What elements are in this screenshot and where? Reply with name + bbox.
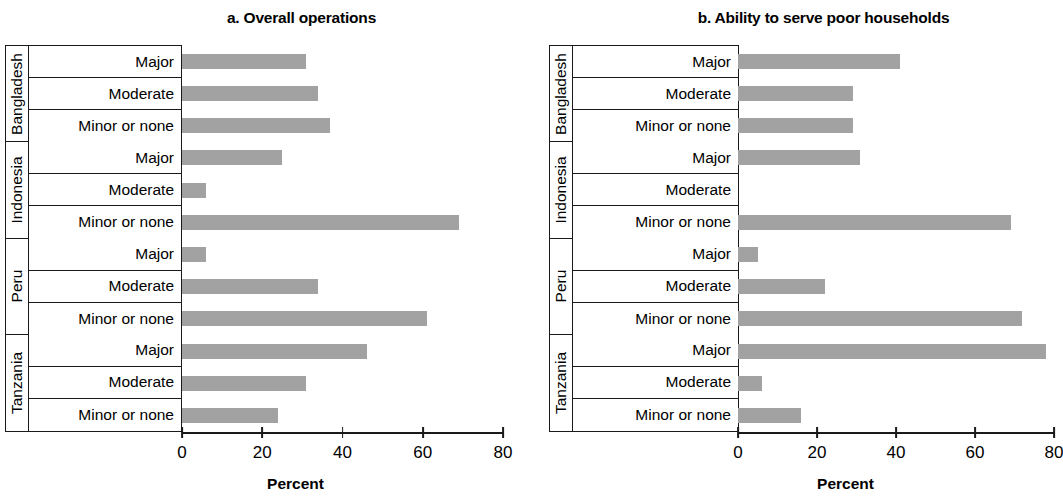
bar-row [738,142,1054,174]
category-label: Moderate [29,174,181,206]
axis-tick-label: 60 [413,443,432,463]
category-label: Moderate [573,78,738,110]
axis-tick-label: 40 [333,443,352,463]
country-label-bangladesh: Bangladesh [6,46,28,142]
bar-row [182,206,503,238]
bar [182,54,306,69]
axis-tick [816,427,818,438]
bar-row [738,77,1054,109]
axis-tick-label: 60 [966,443,985,463]
category-label: Minor or none [573,110,738,142]
panel-a-axis-title: Percent [0,475,531,493]
category-label: Moderate [29,271,181,303]
bar-row [182,142,503,174]
axis-tick [422,427,424,438]
axis-tick [1053,427,1055,438]
axis-tick [181,427,183,438]
category-label: Minor or none [29,206,181,238]
panel-b-title: b. Ability to serve poor households [530,9,1061,27]
country-label-indonesia: Indonesia [550,142,572,238]
category-label: Moderate [29,78,181,110]
panel-b-category-column: Major Moderate Minor or none Major Moder… [573,46,738,431]
panel-ability-to-serve-poor-households: b. Ability to serve poor households Bang… [530,0,1061,501]
bar-row [738,174,1054,206]
category-label: Minor or none [573,206,738,238]
bar-row [738,109,1054,141]
bar-row [738,271,1054,303]
bar [738,118,853,133]
bar-row [738,335,1054,367]
bar [182,376,306,391]
category-label: Major [29,335,181,367]
bar [738,376,762,391]
panel-a-country-column: Bangladesh Indonesia Peru Tanzania [6,46,29,431]
bar-row [182,45,503,77]
bar [738,215,1011,230]
bar-row [738,206,1054,238]
panel-a-category-column: Major Moderate Minor or none Major Moder… [29,46,181,431]
axis-tick-label: 20 [808,443,827,463]
country-label-tanzania: Tanzania [550,335,572,431]
bar-row [182,335,503,367]
country-label-text: Peru [8,270,26,303]
bar-row [182,238,503,270]
category-label: Minor or none [573,399,738,431]
country-label-text: Indonesia [552,156,570,223]
bar [182,247,206,262]
axis-tick-label: 40 [887,443,906,463]
bar-row [738,367,1054,399]
bar-row [182,271,503,303]
axis-tick [895,427,897,438]
country-label-bangladesh: Bangladesh [550,46,572,142]
category-label: Minor or none [29,303,181,335]
bar-row [182,174,503,206]
bar-row [182,367,503,399]
bar [738,408,801,423]
axis-tick [502,427,504,438]
country-label-text: Bangladesh [552,53,570,135]
category-label: Major [29,238,181,270]
bar [182,215,459,230]
country-label-text: Tanzania [552,352,570,414]
bar [738,311,1022,326]
panel-a-plot-area [182,45,503,432]
category-label: Major [29,46,181,78]
bar [738,54,900,69]
country-label-text: Bangladesh [8,53,26,135]
panel-b-plot-area [738,45,1054,432]
category-label: Minor or none [29,399,181,431]
bar [182,344,367,359]
panel-a-label-box: Bangladesh Indonesia Peru Tanzania Major… [5,45,182,432]
panel-b-label-box: Bangladesh Indonesia Peru Tanzania Major… [549,45,739,432]
category-label: Major [29,142,181,174]
panel-b-x-axis: 020406080 [738,432,1054,466]
axis-tick-label: 80 [1045,443,1063,463]
category-label: Moderate [573,174,738,206]
panel-b-axis-title: Percent [530,475,1061,493]
bar [182,311,427,326]
bar-row [738,303,1054,335]
country-label-indonesia: Indonesia [6,142,28,238]
axis-tick [342,427,344,438]
panel-b-country-column: Bangladesh Indonesia Peru Tanzania [550,46,573,431]
bar [182,279,318,294]
bar [182,86,318,101]
axis-tick-label: 0 [177,443,186,463]
country-label-text: Indonesia [8,156,26,223]
panel-a-x-axis: 020406080 [182,432,503,466]
bar-row [182,109,503,141]
bar-row [182,77,503,109]
country-label-tanzania: Tanzania [6,335,28,431]
axis-tick-label: 80 [494,443,513,463]
country-label-text: Tanzania [8,352,26,414]
axis-tick-label: 0 [733,443,742,463]
axis-tick-label: 20 [253,443,272,463]
category-label: Major [573,142,738,174]
bar [182,150,282,165]
category-label: Moderate [573,367,738,399]
bar [738,150,860,165]
category-label: Major [573,238,738,270]
bar-row [738,238,1054,270]
category-label: Moderate [573,271,738,303]
